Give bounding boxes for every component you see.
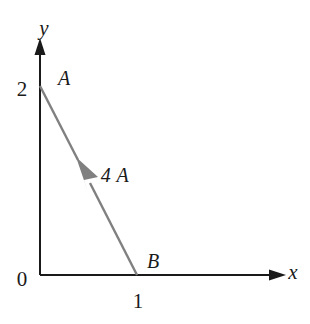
vector-arrowhead-icon — [76, 157, 98, 192]
diagram-canvas — [0, 0, 310, 324]
x-axis-label: x — [288, 262, 297, 283]
y-tick-label-2: 2 — [17, 79, 28, 100]
point-a-label: A — [58, 68, 70, 88]
vector-diagram: y x A 2 4 A B 0 1 — [0, 0, 310, 324]
origin-label: 0 — [17, 269, 28, 290]
vector-label: 4 A — [101, 165, 129, 185]
x-tick-label-1: 1 — [133, 291, 144, 312]
x-axis-arrowhead-icon — [269, 270, 286, 281]
point-b-label: B — [147, 251, 159, 271]
vector-segment-upper — [40, 86, 78, 160]
vector-segment-lower — [90, 183, 137, 275]
y-axis-arrowhead-icon — [35, 38, 46, 55]
y-axis-label: y — [39, 18, 48, 39]
